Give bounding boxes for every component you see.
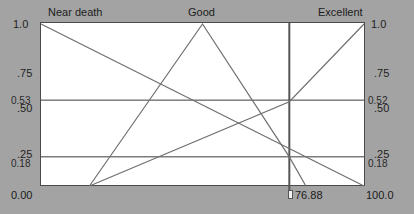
x-axis-min-label: 0.00 [11,190,32,201]
right-tick-1: 1.0 [371,19,386,30]
series-label-good: Good [188,7,215,18]
series-label-near-death: Near death [48,7,102,18]
right-value-marker-052: 0.52 [368,95,387,106]
left-tick-1: 1.0 [13,19,28,30]
right-tick-075: .75 [374,68,389,79]
series-line-good [89,24,305,186]
plot-graphics [0,0,414,214]
cursor-readout: 76.88 [295,190,323,201]
right-value-marker-018: 0.18 [368,158,387,169]
series-line-near-death [41,24,364,186]
series-line-excellent [89,24,364,186]
fuzzy-membership-plot-panel: Near death Good Excellent 1.0 .75 .50 .2… [0,0,414,214]
cursor-handle[interactable] [288,190,293,199]
series-label-excellent: Excellent [318,7,363,18]
left-value-marker-053: 0.53 [11,95,30,106]
x-axis-max-label: 100.0 [366,190,394,201]
left-value-marker-018: 0.18 [11,158,30,169]
left-tick-075: .75 [17,68,32,79]
